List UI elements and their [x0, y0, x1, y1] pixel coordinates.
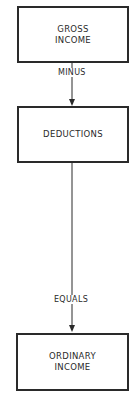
arrowhead-icon — [69, 325, 75, 332]
arrowhead-icon — [69, 99, 75, 106]
gross-income-line2: INCOME — [55, 35, 91, 46]
deductions-box: DEDUCTIONS — [17, 106, 129, 163]
gross-income-box: GROSS INCOME — [17, 6, 129, 63]
ordinary-income-line1: ORDINARY — [49, 351, 96, 362]
ordinary-income-line2: INCOME — [49, 362, 96, 373]
deductions-label: DEDUCTIONS — [43, 129, 103, 140]
equals-label: EQUALS — [52, 295, 90, 304]
ordinary-income-box: ORDINARY INCOME — [16, 333, 129, 391]
minus-label: MINUS — [56, 68, 88, 77]
gross-income-line1: GROSS — [55, 24, 91, 35]
